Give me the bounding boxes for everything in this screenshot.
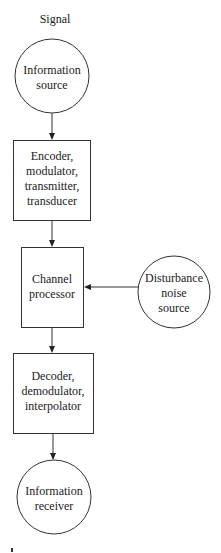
node-label-line: Encoder,: [31, 149, 74, 163]
diagram-title: Signal: [40, 12, 71, 26]
edge-source-to-encoder: [49, 113, 55, 140]
node-label-line: receiver: [35, 499, 74, 513]
node-label-line: Information: [25, 484, 82, 498]
arrowhead-icon: [49, 133, 55, 140]
node-label-line: Disturbance: [145, 271, 203, 285]
node-information-source: Information source: [15, 39, 89, 113]
arrowhead-icon: [49, 346, 55, 353]
node-label-line: source: [36, 78, 67, 92]
node-label-line: modulator,: [26, 164, 78, 178]
arrowhead-icon: [49, 240, 55, 247]
node-label-line: transmitter,: [25, 179, 80, 193]
node-label-line: interpolator: [25, 399, 81, 413]
node-label-line: source: [158, 301, 189, 315]
arrowhead-icon: [84, 284, 91, 290]
node-label-line: demodulator,: [21, 384, 84, 398]
node-channel-processor: Channel processor: [22, 248, 84, 328]
node-label-line: Channel: [32, 272, 73, 286]
node-encoder: Encoder, modulator, transmitter, transdu…: [14, 141, 91, 221]
node-information-receiver: Information receiver: [17, 460, 91, 534]
edge-decoder-to-receiver: [50, 434, 56, 460]
node-label-line: Decoder,: [31, 369, 74, 383]
arrowhead-icon: [50, 453, 56, 460]
node-disturbance-noise-source: Disturbance noise source: [138, 256, 210, 328]
edge-channel-to-decoder: [49, 328, 55, 353]
edge-noise-to-channel: [84, 284, 138, 290]
node-label-line: Information: [23, 63, 80, 77]
node-label-line: noise: [161, 286, 186, 300]
node-label-line: transducer: [27, 194, 77, 208]
node-label-line: processor: [29, 287, 75, 301]
edge-encoder-to-channel: [49, 221, 55, 247]
signal-flow-diagram: Signal Information source Encoder, modul…: [0, 0, 221, 553]
stray-mark: [11, 548, 13, 552]
node-decoder: Decoder, demodulator, interpolator: [14, 354, 94, 434]
